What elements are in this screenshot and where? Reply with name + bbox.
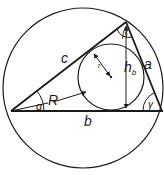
incenter-dot xyxy=(110,76,112,78)
label-R: R xyxy=(48,92,58,108)
inradius-arrow xyxy=(94,54,110,76)
label-alpha: α xyxy=(36,100,43,112)
label-gamma: γ xyxy=(148,99,154,110)
label-c: c xyxy=(61,50,68,66)
label-beta: β xyxy=(121,28,128,39)
triangle-circles-diagram: c a b α β γ R r hb xyxy=(0,0,164,175)
label-h: hb xyxy=(124,59,137,77)
circumcircle xyxy=(3,8,163,168)
label-a: a xyxy=(144,56,152,72)
label-b: b xyxy=(84,113,92,129)
